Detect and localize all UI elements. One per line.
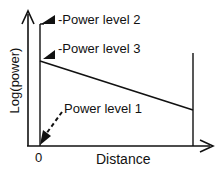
annotation-power-level-3: -Power level 3 <box>58 42 140 55</box>
y-axis-label: Log(power) <box>8 46 21 116</box>
annotation-power-level-2: -Power level 2 <box>58 13 140 26</box>
arrowhead-power-level-1 <box>40 130 51 145</box>
arrowhead-power-level-3 <box>43 50 55 59</box>
x-axis-label: Distance <box>96 152 150 166</box>
origin-label: 0 <box>35 151 42 164</box>
arrowhead-power-level-2 <box>41 15 55 24</box>
y-axis <box>22 11 34 146</box>
dashed-arrow-power-level-1 <box>46 112 62 134</box>
annotation-power-level-1: Power level 1 <box>64 102 142 115</box>
